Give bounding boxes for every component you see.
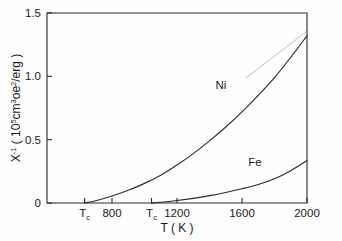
- x-axis-title: T ( K ): [160, 221, 193, 235]
- scan-artifact-line: [246, 31, 307, 78]
- curve-ni: [85, 36, 307, 203]
- curie-tick-label: Tc: [146, 207, 157, 222]
- y-axis-title-text: X-1 ( 105cm3oe2/erg ): [9, 54, 23, 163]
- y-tick-label: 0.5: [25, 134, 41, 146]
- x-axis-tick-labels: 800120016002000: [102, 207, 319, 219]
- x-tick-label: 800: [102, 207, 121, 219]
- y-axis-tick-labels: 00.51.01.5: [25, 7, 41, 209]
- x-tick-label: 1200: [164, 207, 190, 219]
- x-axis-ticks: [112, 198, 307, 203]
- y-axis-ticks: [47, 13, 52, 203]
- series-label-ni: Ni: [215, 79, 226, 91]
- y-tick-label: 1.0: [25, 70, 41, 82]
- series-inline-labels: NiFe: [215, 79, 261, 168]
- x-tick-label: 1600: [229, 207, 255, 219]
- data-curves: [85, 36, 307, 203]
- y-tick-label: 0: [35, 197, 41, 209]
- chart-canvas: 00.51.01.5 800120016002000 TcTc NiFe T (…: [0, 0, 342, 241]
- curie-tick-label: Tc: [79, 207, 90, 222]
- y-tick-label: 1.5: [25, 7, 41, 19]
- y-axis-title: X-1 ( 105cm3oe2/erg ): [9, 54, 23, 163]
- plot-frame: [47, 13, 307, 203]
- x-tick-label: 2000: [294, 207, 320, 219]
- series-label-fe: Fe: [248, 156, 261, 168]
- figure-container: 00.51.01.5 800120016002000 TcTc NiFe T (…: [0, 0, 342, 241]
